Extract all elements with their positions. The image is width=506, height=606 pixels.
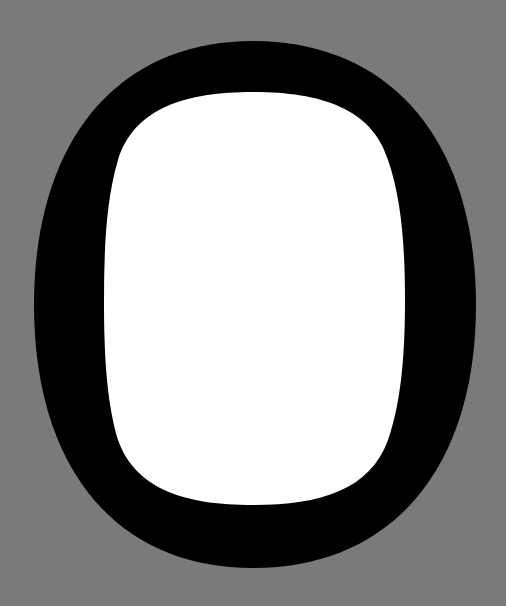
letter-o-glyph [0, 0, 506, 606]
glyph-canvas: O [0, 0, 506, 606]
glyph-counter [104, 92, 405, 505]
